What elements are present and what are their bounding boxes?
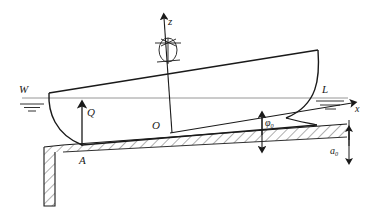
hull-deck-line	[49, 50, 318, 93]
reaction-force-label: Q	[87, 107, 95, 118]
z-axis	[164, 18, 172, 133]
trim-angle-subscript: 0	[271, 122, 274, 129]
seabed	[63, 124, 347, 152]
x-axis-label: x	[355, 104, 359, 114]
ship-grounding-diagram: z x O W L Q A φ0 a0	[0, 0, 370, 214]
quay-wall	[44, 145, 63, 206]
hull-bow-curve	[286, 50, 319, 118]
ground-depth-subscript: 0	[335, 150, 338, 157]
hull-stern-curve	[49, 93, 82, 145]
trim-angle-symbol: φ	[265, 117, 271, 128]
origin-label: O	[152, 120, 160, 131]
hull-bow-foot	[286, 118, 317, 125]
waterline	[20, 98, 348, 111]
diagram-canvas	[0, 0, 370, 214]
z-axis-label: z	[168, 16, 172, 27]
rotation-symbol	[155, 38, 181, 64]
contact-point-label: A	[79, 155, 86, 166]
trim-angle-label: φ0	[265, 118, 274, 128]
waterline-left-label: W	[19, 84, 28, 95]
ground-depth-label: a0	[330, 146, 338, 156]
waterline-right-label: L	[322, 84, 328, 95]
